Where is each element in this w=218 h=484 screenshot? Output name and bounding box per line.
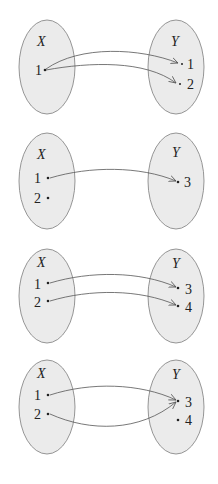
domain-element: 1 <box>34 388 41 403</box>
domain-point <box>47 197 50 200</box>
codomain-point <box>179 83 181 85</box>
domain-label: X <box>36 255 46 270</box>
codomain-point <box>177 400 180 403</box>
codomain-element: 4 <box>185 300 192 315</box>
domain-set-x <box>19 360 75 454</box>
codomain-element: 3 <box>185 282 192 297</box>
domain-element: 2 <box>34 191 41 206</box>
codomain-point <box>181 63 183 65</box>
domain-element: 1 <box>34 277 41 292</box>
codomain-element: 1 <box>187 57 194 72</box>
codomain-point <box>177 181 180 184</box>
codomain-point <box>177 305 180 308</box>
domain-point <box>47 413 50 416</box>
codomain-element: 4 <box>185 413 192 428</box>
domain-point <box>47 394 50 397</box>
domain-element: 2 <box>34 407 41 422</box>
domain-set-x <box>19 249 75 343</box>
domain-point <box>47 177 50 180</box>
domain-point <box>44 69 47 72</box>
codomain-point <box>177 287 180 290</box>
mapping-1: X Y 1 1 2 <box>19 20 204 114</box>
domain-element: 2 <box>34 295 41 310</box>
domain-label: X <box>36 34 46 49</box>
domain-point <box>47 282 50 285</box>
domain-label: X <box>36 147 46 162</box>
codomain-point <box>177 419 180 422</box>
mapping-4: X Y 1 2 3 4 <box>19 360 204 454</box>
domain-element: 1 <box>34 171 41 186</box>
domain-set-x <box>19 133 75 229</box>
set-mapping-diagrams: X Y 1 1 2 X Y 1 2 3 X Y 1 2 3 4 <box>0 0 218 484</box>
domain-element: 1 <box>35 63 42 78</box>
domain-point <box>47 300 50 303</box>
codomain-element: 3 <box>184 175 191 190</box>
mapping-2: X Y 1 2 3 <box>19 133 204 229</box>
codomain-element: 2 <box>187 77 194 92</box>
mapping-3: X Y 1 2 3 4 <box>19 249 204 343</box>
domain-label: X <box>36 366 46 381</box>
codomain-element: 3 <box>185 395 192 410</box>
